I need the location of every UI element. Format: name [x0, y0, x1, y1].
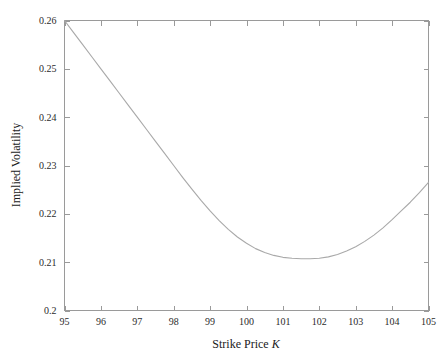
x-tick-label: 102 [312, 316, 327, 327]
y-tick-label: 0.2 [44, 305, 57, 316]
y-tick-label: 0.26 [39, 15, 57, 26]
y-tick-label: 0.24 [39, 112, 57, 123]
implied-volatility-chart: 9596979899100101102103104105 0.20.210.22… [0, 0, 444, 361]
x-tick-label: 97 [132, 316, 142, 327]
x-axis-title-text: Strike Price [212, 337, 271, 351]
x-tick-label: 101 [275, 316, 290, 327]
x-tick-label: 96 [96, 316, 106, 327]
y-tick-label: 0.23 [39, 160, 57, 171]
x-tick-label: 100 [239, 316, 254, 327]
chart-page: 9596979899100101102103104105 0.20.210.22… [0, 0, 444, 361]
y-tick-label: 0.21 [39, 257, 57, 268]
y-tick-label: 0.25 [39, 63, 57, 74]
y-tick-label: 0.22 [39, 208, 57, 219]
x-tick-label: 98 [169, 316, 179, 327]
x-axis-title: Strike Price K [212, 337, 280, 351]
x-tick-label: 105 [421, 316, 436, 327]
x-tick-label: 99 [205, 316, 215, 327]
chart-background [0, 0, 444, 361]
x-axis-title-symbol: K [271, 337, 281, 351]
y-axis-title: Implied Volatility [9, 123, 23, 208]
x-tick-label: 95 [60, 316, 70, 327]
x-tick-label: 103 [348, 316, 363, 327]
x-tick-label: 104 [385, 316, 400, 327]
